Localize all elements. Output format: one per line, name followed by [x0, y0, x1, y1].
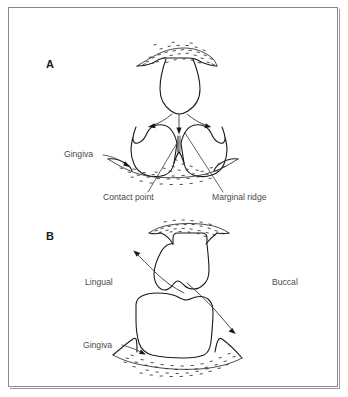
panel-a-opposing-cusp	[160, 59, 200, 114]
panel-b-arrow-buccal-head	[229, 328, 236, 334]
panel-b-arrow-buccal-shaft	[187, 283, 233, 331]
panel-a-marginal-ridge-label: Marginal ridge	[212, 192, 267, 202]
panel-b-gingiva-label: Gingiva	[83, 340, 112, 350]
panel-b-arrow-lingual-shaft	[136, 253, 184, 293]
panel-b-label: B	[46, 230, 54, 242]
panel-a-force-arrows	[148, 114, 211, 135]
figure-root: A	[0, 0, 348, 397]
panel-b-upper-tooth	[154, 233, 209, 290]
panel-b-upper-gingiva	[149, 220, 229, 244]
panel-b: B	[46, 220, 298, 377]
panel-a-label: A	[46, 58, 54, 70]
arrow-head-right	[205, 123, 212, 128]
panel-a-left-molar	[131, 125, 177, 177]
panel-b-lower-tooth	[136, 293, 213, 358]
arrow-head-center	[176, 128, 181, 135]
dental-illustration: A	[0, 0, 348, 397]
panel-a-upper-stipple	[143, 42, 214, 64]
panel-b-arrow-lingual-head	[133, 250, 140, 256]
panel-a-contact-point-label: Contact point	[103, 192, 154, 202]
panel-a-upper-gingiva	[137, 42, 217, 66]
panel-a: A	[46, 42, 267, 202]
panel-a-gingiva-label: Gingiva	[64, 149, 93, 159]
panel-b-flow-arrows	[133, 250, 236, 334]
panel-b-buccal-label: Buccal	[272, 277, 298, 287]
panel-b-lingual-label: Lingual	[85, 277, 113, 287]
